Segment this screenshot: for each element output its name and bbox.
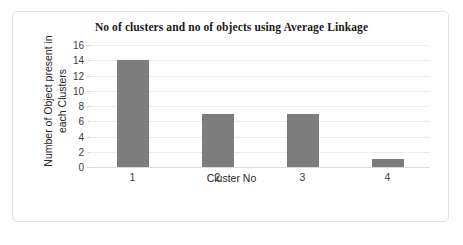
y-axis-tick-label: 2 [78, 146, 84, 157]
y-axis-tick-label: 12 [73, 70, 84, 81]
y-axis-tick-label: 16 [73, 40, 84, 51]
y-axis-title-line-1: Number of Object present in [41, 35, 55, 166]
plot-wrapper: 0246810121416 1234 [61, 45, 441, 175]
bar[interactable] [117, 60, 149, 167]
bar[interactable] [372, 159, 404, 167]
plot-area [90, 45, 430, 167]
chart-screenshot: No of clusters and no of objects using A… [0, 0, 463, 245]
y-axis-tick-label: 6 [78, 116, 84, 127]
bar[interactable] [202, 114, 234, 167]
y-axis-tick-label: 4 [78, 131, 84, 142]
y-axis-tick-label: 8 [78, 101, 84, 112]
y-axis-tick-label: 14 [73, 55, 84, 66]
y-axis-tick-label: 10 [73, 85, 84, 96]
gridline [90, 167, 430, 168]
y-axis-tick-labels: 0246810121416 [61, 45, 87, 167]
y-axis-tick-label: 0 [78, 162, 84, 173]
bars-layer [90, 45, 430, 167]
x-axis-title: Cluster No [13, 172, 450, 184]
y-axis-tick-mark [87, 167, 90, 168]
bar[interactable] [287, 114, 319, 167]
chart-title: No of clusters and no of objects using A… [13, 21, 450, 33]
chart-container: No of clusters and no of objects using A… [12, 11, 449, 222]
